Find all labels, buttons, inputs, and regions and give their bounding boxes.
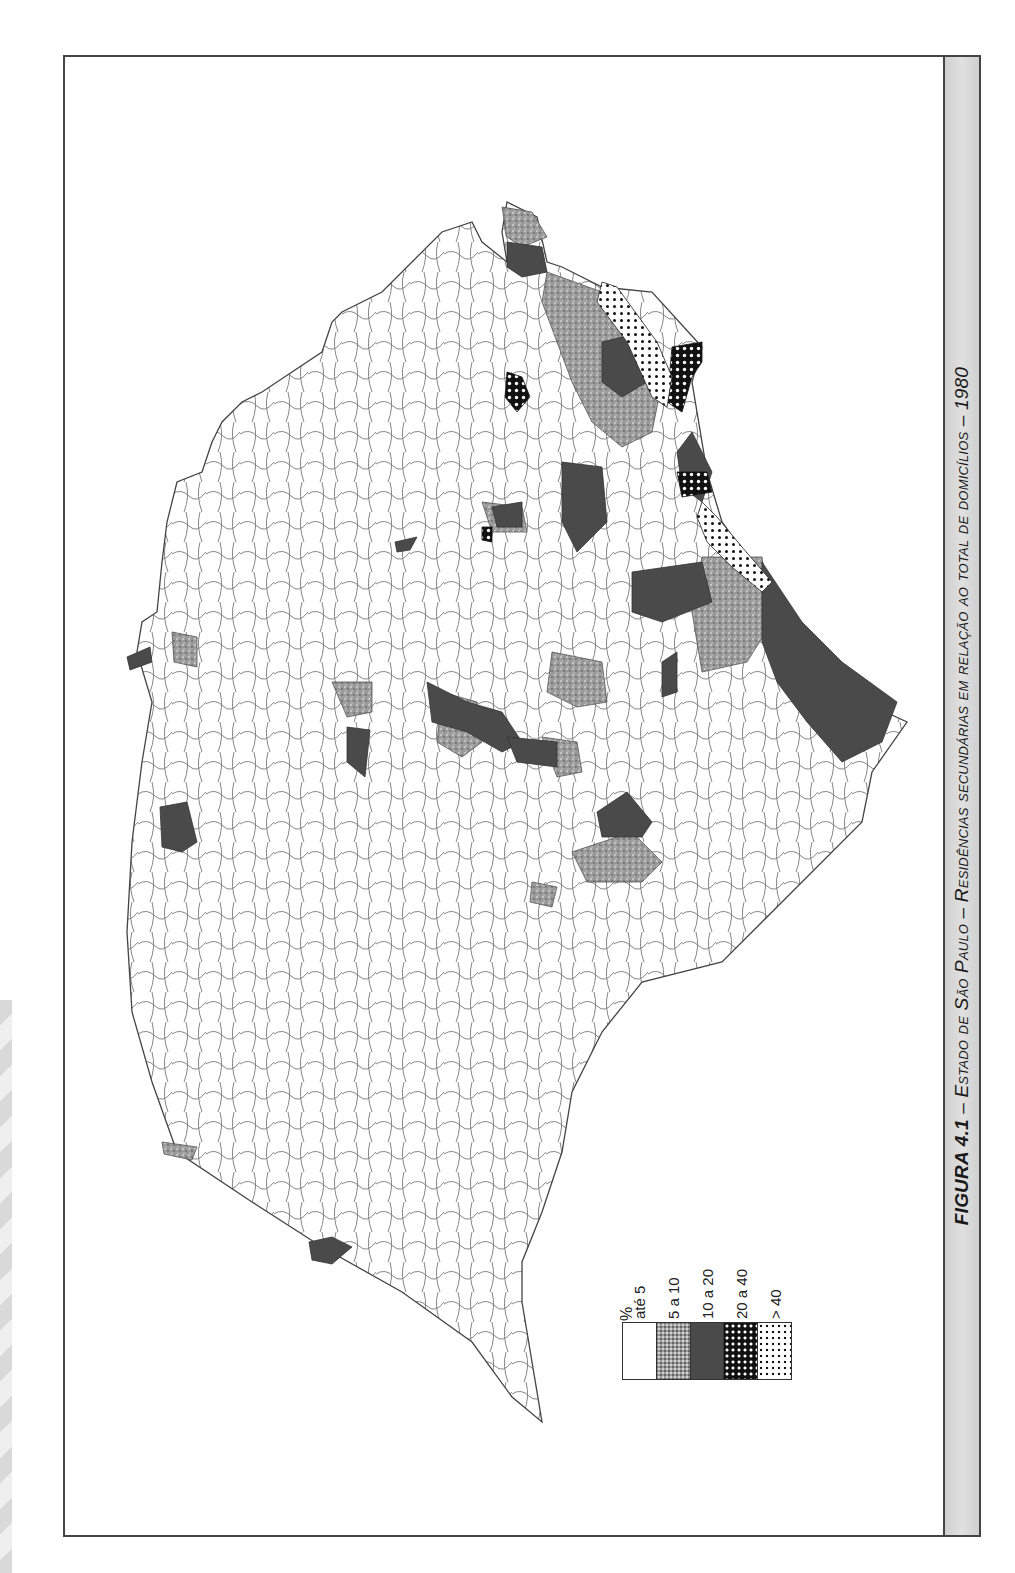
legend-swatch-ate-5 [623, 1323, 657, 1379]
legend-swatch-10-20 [691, 1323, 725, 1379]
legend-label-3: 20 a 40 [733, 1269, 750, 1319]
legend-label-4: > 40 [767, 1289, 784, 1319]
legend-label-2: 10 a 20 [699, 1269, 716, 1319]
legend-label-1: 5 a 10 [665, 1277, 682, 1319]
figure-caption-band: FIGURA 4.1 – Estado de São Paulo – Resid… [943, 57, 979, 1535]
map-area [65, 57, 945, 1535]
caption-separator: – [951, 1098, 972, 1120]
legend-swatches [622, 1322, 792, 1380]
figure-caption: FIGURA 4.1 – Estado de São Paulo – Resid… [951, 367, 973, 1225]
caption-title-part2: Residências secundárias em relação ao to… [951, 432, 972, 902]
page-edge-decoration [0, 1000, 12, 1573]
figure-frame: % até 5 5 a 10 10 a 20 20 a 40 > 40 FIGU… [63, 55, 981, 1537]
legend-swatch-5-10 [657, 1323, 691, 1379]
caption-separator-3: – [951, 410, 972, 432]
map-legend: % até 5 5 a 10 10 a 20 20 a 40 > 40 [620, 1187, 800, 1387]
caption-title-part1: Estado de São Paulo [951, 924, 972, 1098]
figure-number: FIGURA 4.1 [951, 1119, 972, 1225]
legend-label-0: até 5 [631, 1286, 648, 1319]
legend-swatch-over-40 [758, 1323, 791, 1379]
legend-swatch-20-40 [724, 1323, 758, 1379]
caption-separator-2: – [951, 902, 972, 924]
sao-paulo-map [65, 57, 945, 1535]
caption-year: 1980 [951, 367, 972, 410]
